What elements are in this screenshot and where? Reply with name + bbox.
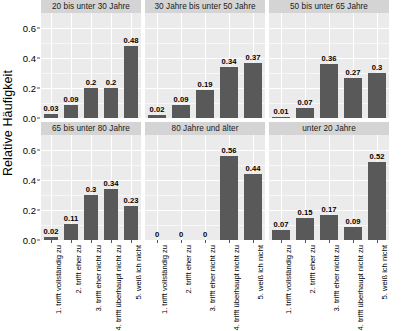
bar-value: 0.3 xyxy=(372,63,383,72)
bar xyxy=(368,162,385,240)
facet-strip-3: 65 bis unter 80 Jahre xyxy=(41,122,141,135)
x-tick: 3. trifft eher nicht zu xyxy=(193,240,217,331)
y-axis-title-text: Relative Häufigkeit xyxy=(1,69,15,175)
bar-slot: 0.09 xyxy=(61,13,81,118)
bar xyxy=(244,63,261,119)
x-tick-mark xyxy=(329,240,330,243)
bar-slot: 0.37 xyxy=(241,13,265,118)
x-tick-mark xyxy=(71,240,72,243)
bar-slot: 0.36 xyxy=(317,13,341,118)
bars-layer-1: 0.02 0.09 0.19 0.34 xyxy=(145,13,265,118)
bar-slot: 0.34 xyxy=(101,135,121,240)
bar xyxy=(272,230,289,241)
bar-slot: 0.27 xyxy=(341,13,365,118)
y-tick-mark-1 xyxy=(37,88,40,89)
facet-strip-2: 50 bis unter 65 Jahre xyxy=(269,0,389,13)
facet-panel-1: 30 Jahre bis unter 50 Jahre xyxy=(145,0,265,122)
facet-strip-5: unter 20 Jahre xyxy=(269,122,389,135)
bar xyxy=(84,195,98,240)
bar-slot: 0.2 xyxy=(81,13,101,118)
y-tick-label-2: 0.4 xyxy=(23,175,36,186)
bars-layer-4: 0 0 0 0.56 xyxy=(145,135,265,240)
bar-value: 0.2 xyxy=(86,78,97,87)
plot-area-4: 0 0 0 0.56 xyxy=(145,135,265,240)
y-tick-label-3: 0.6 xyxy=(23,145,36,156)
x-tick-mark xyxy=(51,240,52,243)
bars-layer-5: 0.07 0.15 0.17 0.09 xyxy=(269,135,389,240)
bar xyxy=(344,227,361,241)
bar xyxy=(320,64,337,118)
bar xyxy=(148,115,165,118)
facet-row-bottom: 0.0 0.2 0.4 0.6 65 bis unter 80 Jahre xyxy=(16,122,401,331)
facet-title-5: unter 20 Jahre xyxy=(302,124,356,133)
y-tick-label-0: 0.0 xyxy=(23,235,36,246)
facet-panel-4: 80 Jahre und älter xyxy=(145,122,265,331)
bar xyxy=(84,88,98,118)
bar xyxy=(320,215,337,241)
x-tick: 4. trifft überhaupt nicht zu xyxy=(341,240,365,331)
bar-value: 0.3 xyxy=(86,185,97,194)
x-tick-label: 5. weiß ich nicht xyxy=(380,245,389,299)
x-tick: 1. trifft vollständig zu xyxy=(269,240,293,331)
y-tick-mark-1 xyxy=(37,210,40,211)
x-tick-mark xyxy=(181,240,182,243)
bar xyxy=(64,224,78,241)
bar-value: 0.01 xyxy=(274,107,289,116)
bar-value: 0.44 xyxy=(246,164,261,173)
facet-strip-0: 20 bis unter 30 Jahre xyxy=(41,0,141,13)
chart-root: Relative Häufigkeit 0.0 0.2 0.4 0.6 20 b… xyxy=(0,0,401,331)
y-tick-label-3: 0.6 xyxy=(23,23,36,34)
bar-slot: 0.03 xyxy=(41,13,61,118)
facet-panel-2: 50 bis unter 65 Jahre xyxy=(269,0,389,122)
bar-slot: 0 xyxy=(169,135,193,240)
x-tick-label: 3. trifft eher nicht zu xyxy=(332,245,341,312)
facet-panel-0: 0.0 0.2 0.4 0.6 20 bis unter 30 Jahre xyxy=(16,0,141,122)
y-tick-label-2: 0.4 xyxy=(23,53,36,64)
bar-slot: 0.15 xyxy=(293,135,317,240)
x-tick-label: 1. trifft vollständig zu xyxy=(284,245,293,314)
bar-value: 0.36 xyxy=(322,54,337,63)
bar-value: 0.09 xyxy=(174,95,189,104)
x-tick: 1. trifft vollständig zu xyxy=(41,240,61,331)
facet-title-2: 50 bis unter 65 Jahre xyxy=(290,2,368,11)
bar-value: 0.09 xyxy=(346,217,361,226)
y-tick-mark-3 xyxy=(37,150,40,151)
bar-slot: 0.11 xyxy=(61,135,81,240)
bar-value: 0.23 xyxy=(124,196,139,205)
y-tick-mark-2 xyxy=(37,180,40,181)
facet-title-4: 80 Jahre und älter xyxy=(172,124,239,133)
bar-slot: 0.3 xyxy=(365,13,389,118)
bar xyxy=(368,73,385,118)
facet-title-0: 20 bis unter 30 Jahre xyxy=(52,2,130,11)
bar-value: 0.07 xyxy=(274,220,289,229)
facet-panel-3: 0.0 0.2 0.4 0.6 65 bis unter 80 Jahre xyxy=(16,122,141,331)
x-tick-mark xyxy=(229,240,230,243)
bar xyxy=(104,189,118,240)
bar-slot: 0.01 xyxy=(269,13,293,118)
x-axis-3: 1. trifft vollständig zu 2. trifft eher … xyxy=(41,240,141,331)
x-tick-mark xyxy=(205,240,206,243)
y-tick-label-1: 0.2 xyxy=(23,205,36,216)
bar-slot: 0.02 xyxy=(41,135,61,240)
y-tick-mark-0 xyxy=(37,118,40,119)
x-tick: 3. trifft eher nicht zu xyxy=(317,240,341,331)
x-tick-label: 2. trifft eher zu xyxy=(184,245,193,293)
bar-value: 0 xyxy=(203,230,207,239)
bar-slot: 0.48 xyxy=(121,13,141,118)
x-tick: 5. weiß ich nicht xyxy=(241,240,265,331)
x-tick: 1. trifft vollständig zu xyxy=(145,240,169,331)
plot-area-1: 0.02 0.09 0.19 0.34 xyxy=(145,13,265,118)
bar xyxy=(196,90,213,119)
bar-slot: 0 xyxy=(193,135,217,240)
bar-slot: 0.3 xyxy=(81,135,101,240)
y-tick-label-1: 0.2 xyxy=(23,83,36,94)
bar-value: 0.07 xyxy=(298,98,313,107)
bar-value: 0.56 xyxy=(222,146,237,155)
x-tick: 5. weiß ich nicht xyxy=(121,240,141,331)
bar-value: 0.02 xyxy=(44,227,59,236)
bar-value: 0 xyxy=(155,230,159,239)
bar xyxy=(244,174,261,240)
bar xyxy=(124,46,138,118)
bar xyxy=(296,218,313,241)
bar-value: 0.52 xyxy=(370,152,385,161)
